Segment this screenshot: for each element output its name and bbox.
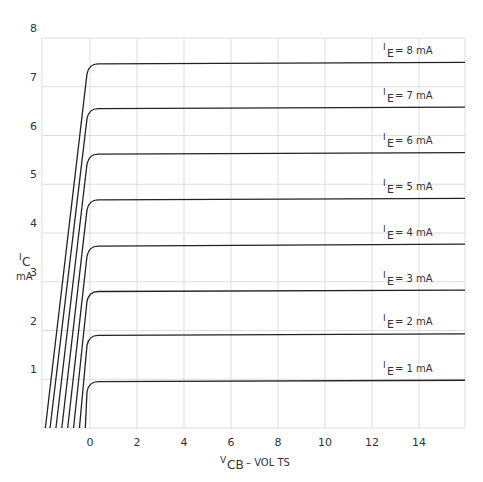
svg-text:E: E <box>387 318 394 331</box>
svg-text:= 1 mA: = 1 mA <box>395 363 433 374</box>
y-tick-label: 5 <box>30 168 37 181</box>
x-axis-label: V CB – VOL TS <box>220 455 290 472</box>
svg-text:I: I <box>383 360 386 370</box>
svg-text:I: I <box>383 132 386 142</box>
svg-text:E: E <box>387 92 394 105</box>
x-tick-label: 14 <box>412 436 426 449</box>
y-tick-label: 7 <box>30 71 37 84</box>
curve-label-ie-2: IE = 2 mA <box>383 313 433 331</box>
curve-label-ie-8: IE = 8 mA <box>383 42 433 60</box>
svg-text:mA: mA <box>16 271 33 282</box>
svg-text:E: E <box>387 47 394 60</box>
svg-text:= 8 mA: = 8 mA <box>395 45 433 56</box>
svg-text:I: I <box>383 42 386 52</box>
characteristic-chart: 12345678 02468101214 IE = 1 mAIE = 2 mAI… <box>0 0 483 482</box>
svg-text:= 4 mA: = 4 mA <box>395 227 433 238</box>
curve-label-ie-4: IE = 4 mA <box>383 224 433 242</box>
svg-text:E: E <box>387 229 394 242</box>
svg-text:C: C <box>22 255 30 269</box>
x-tick-label: 6 <box>228 436 235 449</box>
curve-labels: IE = 1 mAIE = 2 mAIE = 3 mAIE = 4 mAIE =… <box>383 42 433 378</box>
curve-label-ie-6: IE = 6 mA <box>383 132 433 150</box>
x-axis-ticks: 02468101214 <box>87 436 427 449</box>
svg-text:V: V <box>220 455 227 465</box>
svg-text:I: I <box>383 270 386 280</box>
svg-text:– VOL TS: – VOL TS <box>246 457 290 468</box>
svg-text:I: I <box>383 224 386 234</box>
curve-label-ie-1: IE = 1 mA <box>383 360 433 378</box>
x-tick-label: 2 <box>134 436 141 449</box>
y-axis-ticks: 12345678 <box>30 22 37 376</box>
svg-text:E: E <box>387 365 394 378</box>
y-tick-label: 6 <box>30 120 37 133</box>
svg-text:= 3 mA: = 3 mA <box>395 273 433 284</box>
svg-text:= 5 mA: = 5 mA <box>395 181 433 192</box>
curve-label-ie-3: IE = 3 mA <box>383 270 433 288</box>
svg-text:E: E <box>387 275 394 288</box>
x-tick-label: 0 <box>87 436 94 449</box>
curve-ie-1 <box>85 380 465 428</box>
svg-text:E: E <box>387 137 394 150</box>
svg-text:= 6 mA: = 6 mA <box>395 135 433 146</box>
svg-text:= 2 mA: = 2 mA <box>395 316 433 327</box>
curve-label-ie-7: IE = 7 mA <box>383 87 433 105</box>
svg-text:E: E <box>387 183 394 196</box>
svg-text:I: I <box>383 313 386 323</box>
curve-label-ie-5: IE = 5 mA <box>383 178 433 196</box>
y-tick-label: 1 <box>30 363 37 376</box>
y-axis-label: I C mA <box>16 252 33 282</box>
svg-text:= 7 mA: = 7 mA <box>395 90 433 101</box>
svg-text:I: I <box>383 87 386 97</box>
y-tick-label: 8 <box>30 22 37 35</box>
svg-text:CB: CB <box>227 458 244 472</box>
x-tick-label: 10 <box>318 436 332 449</box>
x-tick-label: 4 <box>181 436 188 449</box>
svg-text:I: I <box>383 178 386 188</box>
x-tick-label: 12 <box>365 436 379 449</box>
y-tick-label: 4 <box>30 217 37 230</box>
y-tick-label: 2 <box>30 315 37 328</box>
curve-ie-3 <box>74 290 465 428</box>
x-tick-label: 8 <box>275 436 282 449</box>
